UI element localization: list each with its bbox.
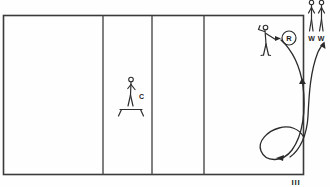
receiver-leg-left-icon	[264, 44, 267, 55]
receiver-to-ball-arrowhead	[275, 36, 281, 41]
waiting2-head-icon	[319, 0, 323, 4]
coach-leg-left-icon	[128, 95, 131, 106]
player-receiver	[259, 25, 276, 55]
receiver-arm-up-icon	[259, 30, 265, 32]
receiver-head-icon	[263, 25, 268, 30]
coach-head-icon	[129, 77, 134, 82]
waiting-label-1: W	[308, 35, 315, 42]
receiver-foot-left-icon	[261, 55, 264, 56]
ball-trajectory-loop	[260, 40, 304, 160]
diagram-canvas: C R	[0, 0, 330, 187]
coach-leg-right-icon	[131, 95, 134, 106]
ball-path-mid-arrowhead	[299, 78, 306, 84]
coach-arm-left-icon	[131, 85, 135, 90]
receiver-body-icon	[265, 30, 266, 44]
coach-platform-leg-right-icon	[141, 110, 144, 117]
player-movement-arc	[290, 44, 324, 158]
figure-caption: III	[291, 178, 300, 187]
waiting-label-2: W	[318, 35, 325, 42]
court-diagram-svg: C R	[0, 0, 330, 187]
coach-platform-leg-left-icon	[119, 110, 122, 117]
player-waiting-2	[319, 0, 325, 31]
waiting1-head-icon	[309, 0, 313, 4]
waiting1-leg-right-icon	[312, 19, 314, 31]
receiver-arm-down-icon	[266, 34, 276, 40]
player-waiting-1	[309, 0, 315, 31]
court-rectangle	[4, 16, 304, 175]
ball-label: R	[286, 34, 292, 43]
receiver-leg-right-icon	[266, 44, 269, 55]
receiver-arm-fore-icon	[259, 26, 261, 30]
waiting2-leg-right-icon	[322, 19, 324, 31]
coach-label: C	[139, 93, 144, 100]
receiver-foot-right-icon	[269, 55, 271, 56]
ball-path-arrowhead	[276, 155, 284, 161]
